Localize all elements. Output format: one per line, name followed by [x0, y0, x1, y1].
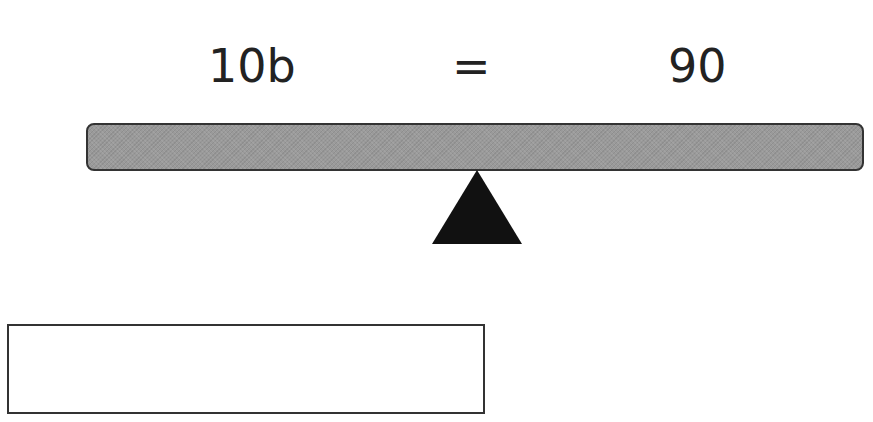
balance-beam — [86, 123, 864, 171]
equals-sign: = — [452, 36, 491, 96]
right-expression: 90 — [668, 36, 727, 96]
left-expression: 10b — [208, 36, 296, 96]
fulcrum-triangle-icon — [432, 170, 522, 244]
answer-input[interactable] — [7, 324, 485, 414]
